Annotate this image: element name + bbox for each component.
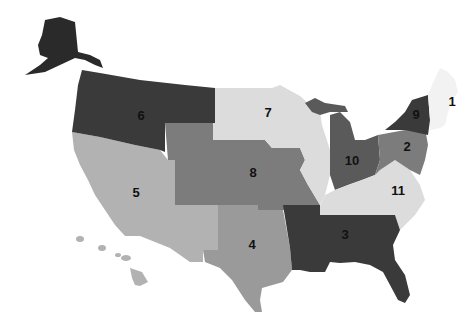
region-label-4: 4 xyxy=(248,237,256,252)
region-label-8: 8 xyxy=(249,165,256,180)
region-5-hawaii[interactable] xyxy=(76,236,148,286)
region-label-9: 9 xyxy=(412,107,419,122)
region-label-10: 10 xyxy=(345,153,359,168)
region-label-11: 11 xyxy=(391,183,405,198)
us-region-map: 1 2 3 4 5 6 7 8 9 10 11 xyxy=(0,0,473,321)
region-label-7: 7 xyxy=(264,105,271,120)
region-6-alaska[interactable] xyxy=(25,17,103,75)
region-9[interactable] xyxy=(385,95,430,135)
region-3[interactable] xyxy=(283,205,410,303)
region-label-3: 3 xyxy=(341,227,348,242)
region-label-6: 6 xyxy=(137,108,144,123)
region-label-2: 2 xyxy=(403,139,410,154)
region-label-5: 5 xyxy=(132,185,139,200)
region-label-1: 1 xyxy=(448,94,455,109)
